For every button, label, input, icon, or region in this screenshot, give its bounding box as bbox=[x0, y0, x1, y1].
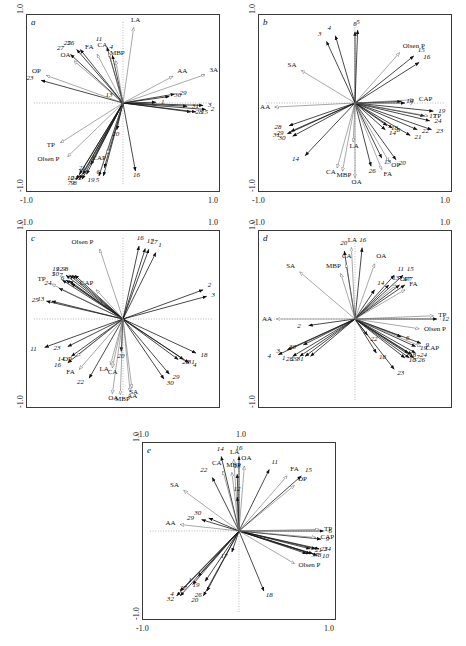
panel-d-xtick-left: -1.0 bbox=[252, 218, 265, 227]
panel-d-xtick-right: 1.0 bbox=[440, 218, 450, 227]
panel-c-ytick-bottom: -1.0 bbox=[16, 395, 25, 408]
species-vector-29 bbox=[123, 319, 169, 374]
panel-e-xtick-left: -1.0 bbox=[136, 430, 149, 439]
species-vector-11 bbox=[355, 275, 394, 319]
env-label-ca: CA bbox=[98, 42, 108, 49]
env-vector-op bbox=[239, 486, 294, 531]
env-label-mbp: MBP bbox=[115, 396, 130, 403]
species-label-15: 15 bbox=[407, 266, 414, 273]
species-label-2: 2 bbox=[171, 596, 175, 603]
env-label-ca: CA bbox=[342, 253, 352, 260]
species-label-20: 20 bbox=[112, 131, 119, 138]
env-label-fa: FA bbox=[384, 171, 392, 178]
species-label-16: 16 bbox=[133, 172, 140, 179]
species-label-22: 22 bbox=[422, 128, 429, 135]
env-label-mbp: MBP bbox=[226, 462, 241, 469]
env-label-oa: OA bbox=[352, 179, 362, 186]
panel-b-ytick-top: 1.0 bbox=[248, 4, 257, 14]
species-label-11: 11 bbox=[397, 266, 403, 273]
env-label-fa: FA bbox=[409, 281, 417, 288]
species-label-10: 10 bbox=[322, 553, 329, 560]
species-label-8: 8 bbox=[318, 552, 322, 559]
panel-b-vectors bbox=[258, 14, 452, 192]
env-label-tp: TP bbox=[38, 276, 46, 283]
species-label-2: 2 bbox=[297, 323, 301, 330]
species-vector-30 bbox=[123, 319, 164, 379]
species-label-16: 16 bbox=[359, 237, 366, 244]
env-label-cap: CAP bbox=[92, 155, 106, 162]
species-label-16: 16 bbox=[54, 362, 61, 369]
species-label-19: 19 bbox=[193, 582, 200, 589]
env-vector-op bbox=[355, 103, 389, 161]
species-vector-3 bbox=[123, 296, 207, 319]
env-label-tp: TP bbox=[433, 113, 441, 120]
species-label-6: 6 bbox=[406, 335, 410, 342]
env-label-la: LA bbox=[350, 143, 359, 150]
species-label-3: 3 bbox=[276, 348, 280, 355]
env-label-olsen-p: Olsen P bbox=[71, 239, 93, 246]
species-vector-18 bbox=[239, 531, 264, 591]
species-label-8: 8 bbox=[73, 180, 77, 187]
species-vector-1 bbox=[293, 319, 355, 356]
env-label-ca: CA bbox=[212, 460, 222, 467]
species-label-27: 27 bbox=[180, 585, 187, 592]
species-vector-7 bbox=[355, 285, 405, 319]
species-label-12: 12 bbox=[234, 486, 241, 493]
species-label-1: 1 bbox=[188, 577, 192, 584]
env-label-fa: FA bbox=[66, 369, 74, 376]
species-label-18: 18 bbox=[201, 352, 208, 359]
panel-a-xtick-right: 1.0 bbox=[208, 196, 218, 205]
species-vector-16 bbox=[123, 103, 135, 171]
species-label-23: 23 bbox=[436, 128, 443, 135]
species-label-15: 15 bbox=[305, 467, 312, 474]
species-label-26: 26 bbox=[369, 168, 376, 175]
panel-c-xtick-left: -1.0 bbox=[20, 218, 33, 227]
species-label-14: 14 bbox=[217, 446, 224, 453]
species-label-3: 3 bbox=[211, 292, 215, 299]
species-label-11: 11 bbox=[271, 459, 277, 466]
env-label-olsen-p: Olsen P bbox=[298, 562, 320, 569]
species-vector-8 bbox=[82, 103, 123, 179]
species-label-30: 30 bbox=[174, 92, 181, 99]
env-label-olsen-p: Olsen P bbox=[424, 326, 446, 333]
panel-e-xtick-bottom-left: -1.0 bbox=[136, 624, 149, 633]
panel-a-vectors bbox=[26, 14, 220, 192]
species-vector-3 bbox=[327, 41, 355, 103]
species-vector-30 bbox=[293, 103, 355, 136]
species-label-23: 23 bbox=[54, 345, 61, 352]
species-label-6: 6 bbox=[61, 275, 65, 282]
species-vector-5 bbox=[355, 30, 358, 103]
species-label-31: 31 bbox=[297, 356, 304, 363]
species-label-16: 16 bbox=[423, 54, 430, 61]
env-label-op: OP bbox=[391, 162, 400, 169]
env-label-mbp: MBP bbox=[326, 263, 341, 270]
env-label-la: LA bbox=[230, 449, 239, 456]
species-label-4: 4 bbox=[193, 362, 197, 369]
species-label-23: 23 bbox=[397, 370, 404, 377]
species-vector-29 bbox=[202, 520, 239, 531]
species-label-4: 4 bbox=[328, 25, 332, 32]
species-label-30: 30 bbox=[278, 135, 285, 142]
env-label-oa: OA bbox=[376, 253, 386, 260]
env-label-tp: TP bbox=[438, 312, 446, 319]
species-vector-28 bbox=[123, 319, 178, 360]
panel-d: d 20161115131771412222691987241052618233… bbox=[258, 230, 452, 408]
species-label-5: 5 bbox=[356, 19, 360, 26]
env-label-mbp: MBP bbox=[337, 172, 352, 179]
panel-d-letter: d bbox=[263, 233, 268, 243]
species-vector-17 bbox=[123, 249, 145, 319]
species-label-14: 14 bbox=[389, 130, 396, 137]
species-vector-14 bbox=[71, 319, 123, 356]
env-label-la: LA bbox=[131, 17, 140, 24]
species-label-1: 1 bbox=[161, 99, 165, 106]
species-label-4: 4 bbox=[268, 353, 272, 360]
env-vector-mbp bbox=[343, 103, 355, 171]
env-label-la: LA bbox=[348, 237, 357, 244]
species-label-16: 16 bbox=[137, 235, 144, 242]
ordination-figure: a 25262711423131293031322815202161024127… bbox=[0, 0, 466, 646]
species-vector-26 bbox=[80, 50, 123, 103]
env-label-olsen-p: Olsen P bbox=[37, 156, 59, 163]
panel-e-letter: e bbox=[147, 445, 151, 455]
species-vector-31 bbox=[287, 103, 355, 134]
panel-d-ytick-bottom: -1.0 bbox=[248, 395, 257, 408]
